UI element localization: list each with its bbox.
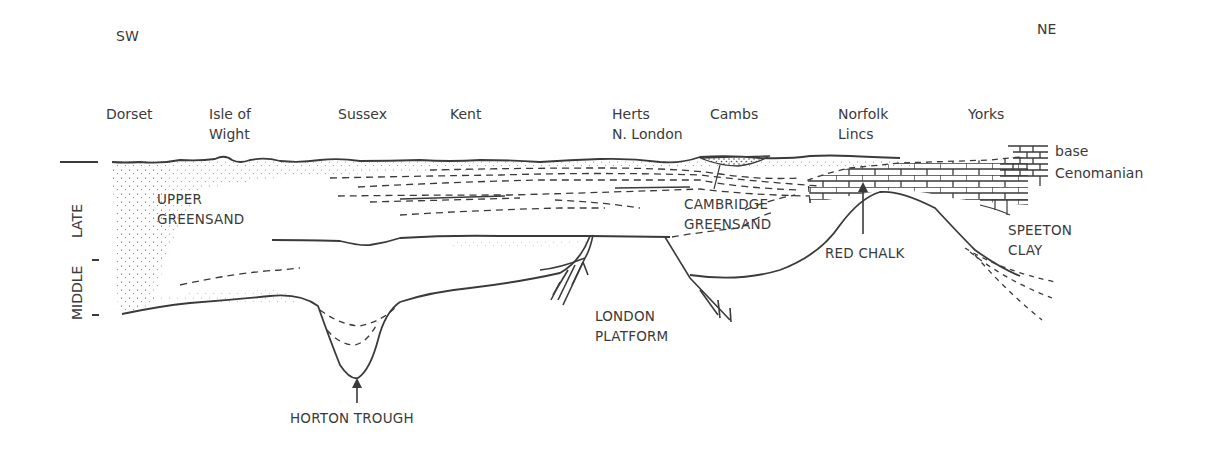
label-cambridge-greensand: CAMBRIDGE GREENSAND <box>684 194 771 234</box>
label-upper-greensand: UPPER GREENSAND <box>157 189 244 229</box>
direction-sw: SW <box>116 26 139 46</box>
region-kent: Kent <box>450 104 481 124</box>
label-red-chalk: RED CHALK <box>825 243 905 263</box>
region-cambs: Cambs <box>710 104 758 124</box>
region-herts-n-london: Herts N. London <box>612 104 683 144</box>
region-dorset: Dorset <box>106 104 153 124</box>
direction-ne: NE <box>1037 19 1056 39</box>
time-late: LATE <box>69 204 85 238</box>
time-middle: MIDDLE <box>69 266 85 320</box>
region-isle-of-wight: Isle of Wight <box>209 104 251 144</box>
base-surface-line <box>122 236 590 378</box>
region-norfolk-lincs: Norfolk Lincs <box>838 104 888 144</box>
label-base-cenomanian: base Cenomanian <box>1055 140 1143 184</box>
label-speeton-clay: SPEETON CLAY <box>1008 220 1072 260</box>
region-sussex: Sussex <box>338 104 387 124</box>
region-yorks: Yorks <box>968 104 1004 124</box>
label-london-platform: LONDON PLATFORM <box>595 306 668 346</box>
label-horton-trough: HORTON TROUGH <box>290 408 414 428</box>
